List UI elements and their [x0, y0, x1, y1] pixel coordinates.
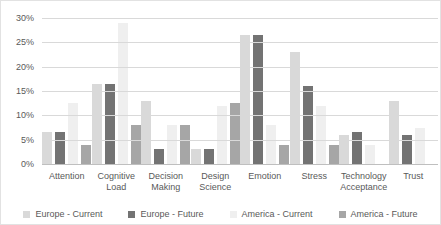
- legend-item-america-current: America - Current: [230, 209, 313, 219]
- bar-america-future-decision-making: [180, 125, 190, 164]
- bar-europe-current-emotion: [240, 35, 250, 164]
- bar-america-current-decision-making: [167, 125, 177, 164]
- x-axis-label-attention: Attention: [42, 171, 92, 193]
- legend-swatch-icon: [339, 211, 346, 218]
- bar-america-current-technology-acceptance: [365, 145, 375, 164]
- x-axis-label-design-science: Design Science: [191, 171, 241, 193]
- legend-item-europe-future: Europe - Future: [128, 209, 203, 219]
- gridline: [42, 18, 438, 19]
- x-axis-label-stress: Stress: [290, 171, 340, 193]
- bar-america-future-attention: [81, 145, 91, 164]
- gridline: [42, 115, 438, 116]
- legend-swatch-icon: [230, 211, 237, 218]
- legend-item-europe-current: Europe - Current: [23, 209, 102, 219]
- y-tick-label: 10%: [16, 110, 34, 120]
- x-axis-label-trust: Trust: [389, 171, 439, 193]
- bar-america-current-cognitive-load: [118, 23, 128, 164]
- bar-europe-future-stress: [303, 86, 313, 164]
- y-tick-label: 30%: [16, 13, 34, 23]
- gridline: [42, 91, 438, 92]
- x-axis: AttentionCognitive LoadDecision MakingDe…: [42, 171, 438, 193]
- bar-europe-current-attention: [42, 132, 52, 164]
- x-axis-label-emotion: Emotion: [240, 171, 290, 193]
- y-tick-label: 25%: [16, 37, 34, 47]
- plot-area: [42, 18, 438, 165]
- legend-label: America - Future: [351, 209, 418, 219]
- bar-america-future-cognitive-load: [131, 125, 141, 164]
- bar-america-future-emotion: [279, 145, 289, 164]
- bar-europe-future-emotion: [253, 35, 263, 164]
- bar-europe-future-design-science: [204, 149, 214, 164]
- bar-europe-current-stress: [290, 52, 300, 164]
- y-tick-label: 15%: [16, 86, 34, 96]
- bar-europe-current-cognitive-load: [92, 84, 102, 164]
- bar-america-current-attention: [68, 103, 78, 164]
- legend-swatch-icon: [23, 211, 30, 218]
- y-tick-label: 0%: [21, 159, 34, 169]
- legend-label: Europe - Future: [140, 209, 203, 219]
- bar-chart: 0%5%10%15%20%25%30% AttentionCognitive L…: [0, 0, 441, 225]
- bar-america-current-emotion: [266, 125, 276, 164]
- bar-europe-future-attention: [55, 132, 65, 164]
- x-axis-label-decision-making: Decision Making: [141, 171, 191, 193]
- x-axis-label-technology-acceptance: Technology Acceptance: [339, 171, 389, 193]
- legend-swatch-icon: [128, 211, 135, 218]
- x-axis-line: [42, 164, 438, 165]
- legend-label: America - Current: [242, 209, 313, 219]
- gridline: [42, 42, 438, 43]
- gridline: [42, 67, 438, 68]
- bar-america-current-trust: [415, 128, 425, 165]
- bar-europe-future-decision-making: [154, 149, 164, 164]
- y-tick-label: 5%: [21, 135, 34, 145]
- bar-america-future-design-science: [230, 103, 240, 164]
- legend: Europe - CurrentEurope - FutureAmerica -…: [1, 209, 440, 219]
- bar-europe-future-cognitive-load: [105, 84, 115, 164]
- bar-europe-current-design-science: [191, 149, 201, 164]
- legend-item-america-future: America - Future: [339, 209, 418, 219]
- gridline: [42, 140, 438, 141]
- y-axis: 0%5%10%15%20%25%30%: [1, 18, 37, 165]
- y-tick-label: 20%: [16, 62, 34, 72]
- bar-europe-current-trust: [389, 101, 399, 164]
- bar-america-future-stress: [329, 145, 339, 164]
- x-axis-label-cognitive-load: Cognitive Load: [92, 171, 142, 193]
- bar-europe-future-technology-acceptance: [352, 132, 362, 164]
- bar-europe-current-decision-making: [141, 101, 151, 164]
- legend-label: Europe - Current: [35, 209, 102, 219]
